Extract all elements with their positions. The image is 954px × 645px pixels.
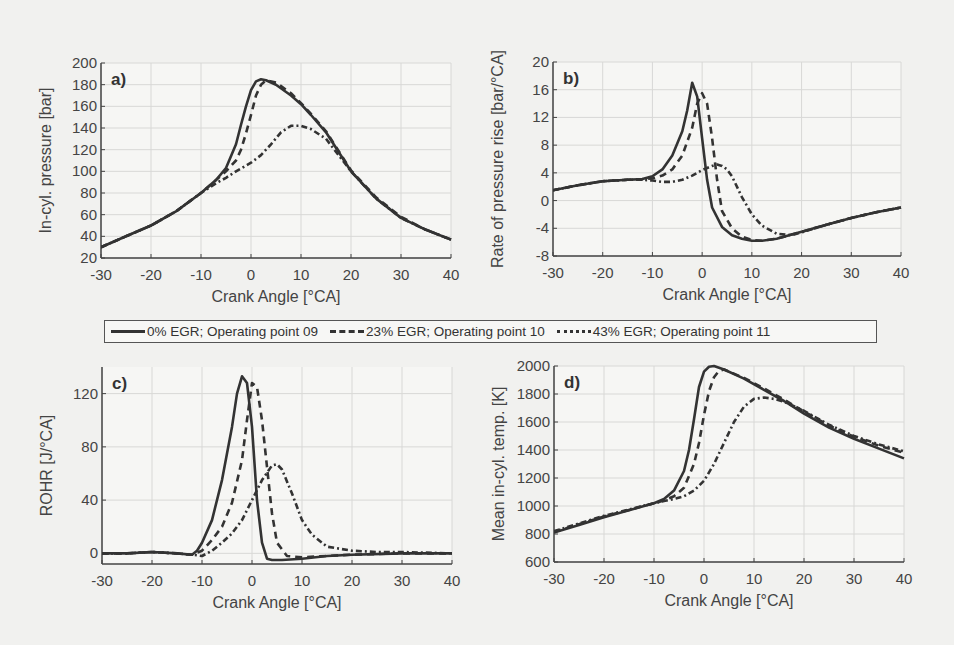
x-tick-label: 30 — [393, 266, 410, 283]
plot-area — [553, 62, 901, 256]
y-tick-label: 2000 — [517, 357, 550, 374]
y-tick-label: 80 — [80, 184, 97, 201]
x-tick-label: 20 — [793, 264, 810, 281]
plot-area — [102, 367, 452, 564]
x-axis-label: Crank Angle [°CA] — [212, 594, 341, 611]
y-tick-label: 4 — [541, 164, 549, 181]
plot-area — [554, 366, 904, 562]
x-tick-label: -10 — [191, 572, 213, 589]
x-tick-label: -10 — [643, 570, 665, 587]
y-axis-label: ROHR [J/°CA] — [38, 415, 55, 517]
legend: 0% EGR; Operating point 09 23% EGR; Oper… — [104, 320, 877, 343]
chart-panel-c: -30-20-1001020304004080120Crank Angle [°… — [38, 367, 460, 611]
y-tick-label: -4 — [536, 219, 549, 236]
panel-label: a) — [111, 70, 126, 89]
y-axis-label: Rate of pressure rise [bar/°CA] — [489, 50, 506, 268]
x-tick-label: 40 — [443, 266, 460, 283]
y-tick-label: 0 — [541, 192, 549, 209]
legend-label: 23% EGR; Operating point 10 — [366, 324, 545, 339]
figure: -30-20-100102030402040608010012014016018… — [0, 0, 954, 645]
y-tick-label: 120 — [73, 385, 98, 402]
dashdot-line-icon — [557, 330, 591, 333]
x-axis-label: Crank Angle [°CA] — [662, 286, 791, 303]
legend-label: 43% EGR; Operating point 11 — [593, 324, 771, 339]
chart-panel-b: -30-20-10010203040-8-4048121620Crank Ang… — [489, 50, 909, 303]
x-tick-label: -20 — [141, 572, 163, 589]
y-tick-label: 120 — [72, 141, 97, 158]
y-tick-label: 20 — [80, 249, 97, 266]
x-tick-label: 30 — [846, 570, 863, 587]
x-tick-label: -10 — [642, 264, 664, 281]
legend-item-0: 0% EGR; Operating point 09 — [111, 324, 318, 339]
y-tick-label: 12 — [532, 108, 549, 125]
x-tick-label: -30 — [542, 264, 564, 281]
y-tick-label: 40 — [80, 227, 97, 244]
x-tick-label: -30 — [90, 266, 112, 283]
x-tick-label: -20 — [593, 570, 615, 587]
y-tick-label: 16 — [532, 81, 549, 98]
y-tick-label: 80 — [81, 438, 98, 455]
x-tick-label: 30 — [394, 572, 411, 589]
y-tick-label: 600 — [525, 553, 550, 570]
x-tick-label: 10 — [746, 570, 763, 587]
x-tick-label: 20 — [344, 572, 361, 589]
chart-panel-a: -30-20-100102030402040608010012014016018… — [37, 54, 459, 305]
x-axis-label: Crank Angle [°CA] — [211, 288, 340, 305]
y-tick-label: 40 — [81, 491, 98, 508]
x-tick-label: 0 — [700, 570, 708, 587]
y-tick-label: -8 — [536, 247, 549, 264]
y-tick-label: 1800 — [517, 385, 550, 402]
x-axis-label: Crank Angle [°CA] — [664, 592, 793, 609]
y-tick-label: 160 — [72, 97, 97, 114]
panel-label: b) — [563, 69, 579, 88]
y-tick-label: 800 — [525, 525, 550, 542]
x-tick-label: 20 — [796, 570, 813, 587]
plot-area — [101, 63, 451, 258]
y-tick-label: 1000 — [517, 497, 550, 514]
x-tick-label: -10 — [190, 266, 212, 283]
y-tick-label: 1200 — [517, 469, 550, 486]
x-tick-label: 10 — [294, 572, 311, 589]
x-tick-label: 0 — [247, 266, 255, 283]
x-tick-label: 40 — [893, 264, 910, 281]
y-tick-label: 200 — [72, 54, 97, 71]
panel-label: d) — [564, 373, 580, 392]
y-tick-label: 60 — [80, 206, 97, 223]
dashed-line-icon — [330, 330, 364, 333]
x-tick-label: 30 — [843, 264, 860, 281]
y-tick-label: 1600 — [517, 413, 550, 430]
legend-label: 0% EGR; Operating point 09 — [147, 324, 318, 339]
x-tick-label: 10 — [293, 266, 310, 283]
x-tick-label: 10 — [744, 264, 761, 281]
x-tick-label: -30 — [91, 572, 113, 589]
x-tick-label: 40 — [444, 572, 461, 589]
y-tick-label: 100 — [72, 162, 97, 179]
y-tick-label: 140 — [72, 119, 97, 136]
legend-item-2: 43% EGR; Operating point 11 — [557, 324, 771, 339]
y-tick-label: 20 — [532, 53, 549, 70]
x-tick-label: 0 — [698, 264, 706, 281]
x-tick-label: -20 — [140, 266, 162, 283]
x-tick-label: 20 — [343, 266, 360, 283]
chart-panel-d: -30-20-100102030406008001000120014001600… — [490, 357, 912, 609]
y-tick-label: 8 — [541, 136, 549, 153]
x-tick-label: -20 — [592, 264, 614, 281]
y-tick-label: 0 — [90, 544, 98, 561]
x-tick-label: -30 — [543, 570, 565, 587]
y-axis-label: In-cyl. pressure [bar] — [37, 88, 54, 234]
x-tick-label: 40 — [896, 570, 913, 587]
y-tick-label: 1400 — [517, 441, 550, 458]
solid-line-icon — [111, 330, 145, 333]
y-tick-label: 180 — [72, 76, 97, 93]
x-tick-label: 0 — [248, 572, 256, 589]
legend-item-1: 23% EGR; Operating point 10 — [330, 324, 545, 339]
y-axis-label: Mean in-cyl. temp. [K] — [490, 387, 507, 542]
panel-label: c) — [112, 374, 127, 393]
